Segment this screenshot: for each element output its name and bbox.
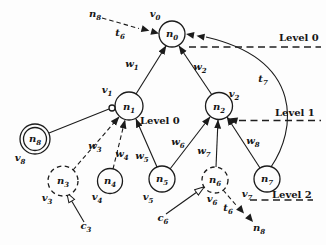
external-n8-bottom-label: n8 xyxy=(253,222,265,236)
c6-arrow xyxy=(166,187,204,214)
edge-label-w4: w4 xyxy=(115,148,129,162)
edge-n8-n1 xyxy=(49,109,109,133)
edge-w4 xyxy=(113,120,125,169)
t6-bottom-arrowhead2-icon xyxy=(236,205,244,213)
edge-label-w3: w3 xyxy=(88,140,102,154)
c3-label: c3 xyxy=(81,220,92,234)
edge-label-w1: w1 xyxy=(125,58,138,72)
n1-port-circle-icon xyxy=(109,105,115,111)
vertex-label-v0: v0 xyxy=(150,8,161,22)
vertex-label-v8: v8 xyxy=(15,152,26,166)
task-graph-figure: n0 n1 n2 n3 n4 n5 n6 n7 n8 v0 v1 v2 v3 v… xyxy=(0,0,326,245)
edge-label-w8: w8 xyxy=(246,135,260,149)
edge-label-w6: w6 xyxy=(171,136,185,150)
edge-w1 xyxy=(136,46,166,94)
external-n8-top-label: n8 xyxy=(89,8,101,22)
graph-canvas: n0 n1 n2 n3 n4 n5 n6 n7 n8 v0 v1 v2 v3 v… xyxy=(0,0,326,245)
level0-mid-label: Level 0 xyxy=(140,115,180,126)
t7-label: t7 xyxy=(258,73,268,87)
level2-label: Level 2 xyxy=(272,189,312,200)
t7-arrowhead2-icon xyxy=(197,34,206,41)
edge-label-w2: w2 xyxy=(193,61,207,75)
c6-label: c6 xyxy=(158,212,169,226)
level1-label: Level 1 xyxy=(275,107,315,118)
t6-top-label: t6 xyxy=(115,27,125,41)
t7-arrowhead-icon xyxy=(186,32,195,39)
edge-w7 xyxy=(216,120,218,167)
vertex-label-v1: v1 xyxy=(102,84,113,98)
vertex-label-v7: v7 xyxy=(242,188,253,202)
level0-right-label: Level 0 xyxy=(279,32,319,43)
edge-label-w5: w5 xyxy=(135,150,149,164)
t6-top-arrow xyxy=(102,18,139,29)
edge-label-w7: w7 xyxy=(197,145,211,159)
t6-top-arrowhead-icon xyxy=(150,28,159,35)
t6-bottom-label: t6 xyxy=(223,202,233,216)
vertex-label-v5: v5 xyxy=(143,191,154,205)
t6-bottom-arrowhead-icon xyxy=(245,214,253,222)
vertex-label-v4: v4 xyxy=(92,191,103,205)
vertex-label-v3: v3 xyxy=(42,192,53,206)
c3-arrow xyxy=(67,193,84,222)
t6-top-arrowhead2-icon xyxy=(141,25,150,32)
vertex-label-v6: v6 xyxy=(207,193,218,207)
